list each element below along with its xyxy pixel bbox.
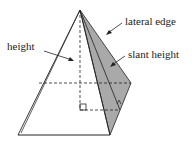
height-label: height bbox=[7, 41, 35, 52]
lateral-edge-label: lateral edge bbox=[125, 16, 176, 27]
pyramid-diagram: height lateral edge slant height bbox=[0, 0, 192, 143]
right-angle-marker bbox=[80, 104, 86, 110]
height-arrow bbox=[44, 51, 72, 60]
slant-height-label: slant height bbox=[128, 49, 179, 60]
lateral-edge-left-inner bbox=[21, 10, 80, 133]
